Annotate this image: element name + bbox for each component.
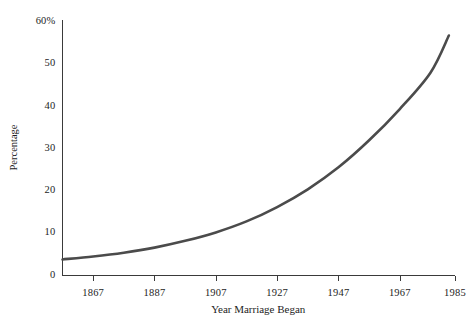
axes-group: [63, 20, 456, 276]
y-axis-tick-label: 0: [50, 270, 55, 281]
y-axis-tick-label: 40: [45, 101, 56, 112]
data-line-1: [63, 36, 449, 260]
x-axis-ticks: [94, 276, 456, 281]
x-axis-tick-label: 1907: [186, 288, 246, 299]
x-axis-tick-label: 1887: [124, 288, 184, 299]
y-axis-tick-label: 20: [45, 185, 56, 196]
y-axis-tick-label: 60%: [36, 16, 56, 27]
data-series-group: [63, 36, 449, 260]
x-axis-tick-label: 1967: [370, 288, 430, 299]
x-axis-tick-label: 1927: [247, 288, 307, 299]
y-axis-tick-label: 30: [45, 143, 56, 154]
y-axis-tick-label: 10: [45, 227, 56, 238]
y-axis-title: Percentage: [8, 113, 19, 183]
y-axis-tick-label: 50: [45, 58, 56, 69]
x-axis-tick-label: 1947: [308, 288, 368, 299]
x-axis-tick-label: 1867: [63, 288, 123, 299]
x-axis-tick-label: 1985: [425, 288, 470, 299]
x-axis-title: Year Marriage Began: [62, 303, 455, 315]
